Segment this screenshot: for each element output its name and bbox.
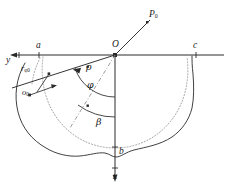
axis-label-y: y	[6, 56, 10, 66]
P0-marker	[146, 21, 148, 23]
offset-vector-line	[30, 86, 55, 95]
offset-vector-arrowhead	[51, 84, 57, 88]
r-phi-tip-marker	[48, 72, 51, 75]
angle-label-phi: φ	[87, 80, 94, 90]
point-label-b: b	[119, 147, 124, 157]
r-subscript: φ0	[24, 67, 30, 73]
vector-label-r-phi0: rφ0	[21, 64, 30, 74]
phi-angle-arc	[75, 68, 115, 97]
offset-center-label-o0: o0	[22, 88, 29, 98]
point-label-c: c	[193, 41, 197, 51]
P0-ray-line	[115, 20, 150, 55]
point-label-P0: P0	[149, 10, 158, 20]
r-phi-indicator-line	[37, 74, 49, 92]
o-subscript: 0	[26, 91, 29, 97]
P-subscript: 0	[155, 13, 158, 19]
axis-label-x: x	[113, 172, 117, 182]
angle-label-beta: β	[96, 117, 102, 127]
figure-root: y x a b c O P0 ρ φ β o0 rφ0	[0, 0, 234, 196]
y-axis-arrowhead	[10, 53, 17, 58]
beta-arc-marker	[87, 105, 89, 107]
radius-label-rho: ρ	[86, 62, 92, 72]
geometry-diagram	[0, 0, 234, 196]
point-label-a: a	[36, 41, 41, 51]
origin-label-O: O	[112, 40, 119, 50]
